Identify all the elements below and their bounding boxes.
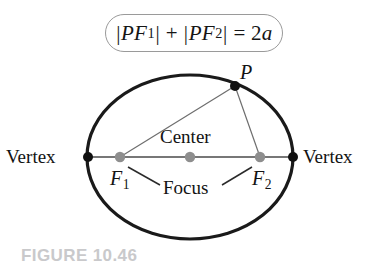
formula-subscript-2: 2 bbox=[215, 25, 223, 42]
formula-subscript-1: 1 bbox=[147, 25, 155, 42]
abs-bar-close-1: | bbox=[155, 21, 160, 46]
focus-2-dot bbox=[255, 152, 265, 162]
label-center: Center bbox=[160, 127, 211, 146]
formula-plus-sign: + bbox=[166, 21, 178, 46]
label-focus-2: F2 bbox=[252, 168, 272, 192]
ellipse-figure: |PF1| + |PF2| = 2a Vertex Vertex Center … bbox=[0, 0, 378, 272]
center-dot bbox=[185, 152, 195, 162]
formula-box: |PF1| + |PF2| = 2a bbox=[105, 14, 283, 52]
vertex-left-dot bbox=[83, 152, 93, 162]
leader-line-focus-right bbox=[222, 167, 252, 185]
point-p-dot bbox=[230, 81, 240, 91]
abs-bar-close-2: | bbox=[223, 21, 228, 46]
formula-equals-sign: = bbox=[233, 21, 245, 46]
label-focus-2-subscript: 2 bbox=[264, 177, 271, 192]
label-focus-1-letter: F bbox=[110, 167, 122, 189]
formula-f-1: F bbox=[134, 21, 147, 46]
formula-p-1: P bbox=[121, 21, 134, 46]
focus-1-dot bbox=[115, 152, 125, 162]
label-vertex-left: Vertex bbox=[6, 147, 56, 166]
label-focus: Focus bbox=[163, 178, 208, 197]
formula-a: a bbox=[262, 21, 273, 46]
formula-text: |PF1| + |PF2| = 2a bbox=[106, 15, 282, 51]
leader-line-focus-left bbox=[128, 167, 160, 185]
label-point-p: P bbox=[240, 62, 252, 82]
formula-coefficient-two: 2 bbox=[251, 21, 262, 46]
label-focus-2-letter: F bbox=[252, 167, 264, 189]
formula-f-2: F bbox=[202, 21, 215, 46]
label-focus-1: F1 bbox=[110, 168, 130, 192]
figure-caption: FIGURE 10.46 bbox=[21, 246, 137, 266]
label-focus-1-subscript: 1 bbox=[122, 177, 129, 192]
vertex-right-dot bbox=[288, 152, 298, 162]
label-vertex-right: Vertex bbox=[303, 147, 353, 166]
formula-p-2: P bbox=[189, 21, 202, 46]
segment-p-to-f2 bbox=[235, 86, 260, 157]
